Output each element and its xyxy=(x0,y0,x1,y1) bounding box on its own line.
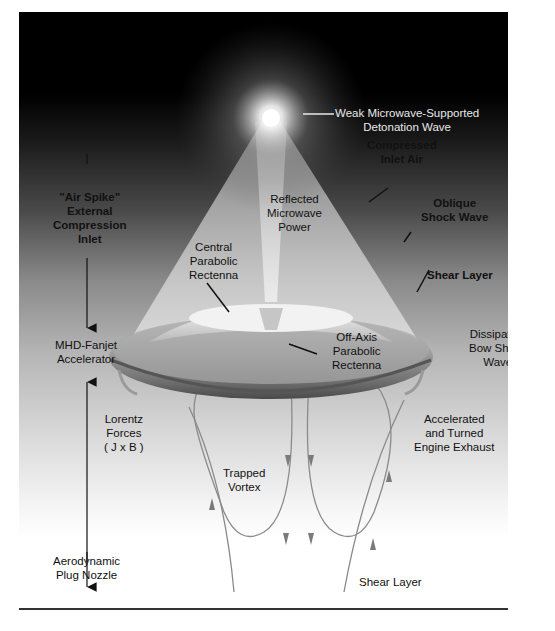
label-mhd-fanjet: MHD-Fanjet Accelerator xyxy=(55,338,117,366)
label-bow-shock: Dissipating Bow Shock Wave xyxy=(469,327,508,369)
bottom-rule xyxy=(19,608,508,610)
label-detonation-wave: Weak Microwave-Supported Detonation Wave xyxy=(335,106,479,134)
label-reflected-power: Reflected Microwave Power xyxy=(267,192,322,234)
label-shear-layer-top: Shear Layer xyxy=(427,268,493,282)
label-compressed-air: Compressed Inlet Air xyxy=(367,138,437,166)
label-trapped-vortex: Trapped Vortex xyxy=(223,466,265,494)
flow-arrows xyxy=(209,376,392,550)
lightcraft-diagram: Weak Microwave-Supported Detonation Wave… xyxy=(19,12,508,597)
label-air-spike: "Air Spike" External Compression Inlet xyxy=(53,190,127,246)
label-oblique-shock: Oblique Shock Wave xyxy=(421,196,488,224)
label-shear-layer-bottom: Shear Layer xyxy=(359,575,422,589)
label-lorentz-forces: Lorentz Forces ( J x B ) xyxy=(104,412,144,454)
diagram-artwork xyxy=(19,12,508,597)
flow-lines xyxy=(189,374,404,592)
label-exhaust: Accelerated and Turned Engine Exhaust xyxy=(414,412,495,454)
label-off-axis-rectenna: Off-Axis Parabolic Rectenna xyxy=(332,330,381,372)
label-plug-nozzle: Aerodynamic Plug Nozzle xyxy=(53,554,120,582)
label-central-rectenna: Central Parabolic Rectenna xyxy=(189,240,238,282)
